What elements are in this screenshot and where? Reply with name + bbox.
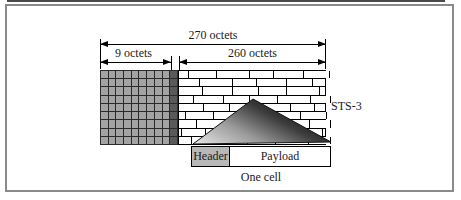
overhead-grid-cell [101, 137, 108, 144]
overhead-grid-cell [139, 96, 146, 103]
overhead-grid-cell [124, 129, 131, 136]
cell-caption: One cell [191, 170, 331, 185]
brick [313, 79, 325, 86]
brick [250, 71, 274, 78]
crop-remnant-line [7, 0, 445, 2]
overhead-grid-cell [155, 104, 162, 111]
brick [274, 71, 304, 78]
overhead-grid-cell [147, 87, 154, 94]
brick [257, 79, 287, 86]
payload-width-arrow [179, 62, 326, 63]
brick [233, 79, 257, 86]
overhead-grid-cell [101, 112, 108, 119]
brick [304, 71, 330, 78]
overhead-grid-cell [132, 120, 139, 127]
overhead-grid [100, 70, 178, 145]
overhead-grid-cell [101, 71, 108, 78]
overhead-grid-cell [124, 120, 131, 127]
overhead-grid-cell [155, 87, 162, 94]
overhead-grid-cell [155, 129, 162, 136]
overhead-grid-cell [139, 120, 146, 127]
overhead-grid-cell [163, 120, 170, 127]
brick-row [179, 79, 325, 87]
cell-zoom-triangle [189, 96, 333, 146]
overhead-grid-cell [147, 120, 154, 127]
brick-row [179, 87, 325, 95]
overhead-grid-cell [132, 96, 139, 103]
overhead-grid-cell [163, 112, 170, 119]
overhead-grid-cell [124, 87, 131, 94]
brick [179, 79, 200, 86]
overhead-grid-cell [132, 71, 139, 78]
overhead-grid-cell [116, 120, 123, 127]
overhead-grid-cell [155, 137, 162, 144]
overhead-grid-cell [147, 129, 154, 136]
overhead-grid-cell [147, 137, 154, 144]
overhead-grid-cell [147, 96, 154, 103]
overhead-grid-cell [116, 112, 123, 119]
overhead-grid-cell [139, 87, 146, 94]
total-width-arrow [100, 44, 326, 45]
total-width-label: 270 octets [100, 28, 326, 42]
overhead-grid-cell [124, 79, 131, 86]
overhead-grid-cell [170, 87, 177, 94]
overhead-grid-cell [109, 104, 116, 111]
overhead-grid-cell [170, 137, 177, 144]
overhead-grid-cell [116, 129, 123, 136]
frame-label: STS-3 [331, 99, 362, 114]
overhead-grid-cell [155, 96, 162, 103]
overhead-grid-cell [109, 79, 116, 86]
overhead-grid-cell [109, 120, 116, 127]
cell-box: Header Payload [191, 146, 331, 167]
overhead-width-arrow [100, 62, 171, 63]
brick [203, 87, 233, 94]
overhead-grid-cell [139, 137, 146, 144]
cell-header-segment: Header [192, 147, 230, 166]
brick [179, 71, 189, 78]
overhead-grid-cell [109, 87, 116, 94]
dimension-tick-right [325, 39, 326, 69]
brick [179, 112, 186, 119]
overhead-grid-cell [163, 71, 170, 78]
overhead-grid-cell [163, 96, 170, 103]
overhead-grid-cell [155, 120, 162, 127]
overhead-grid-cell [116, 104, 123, 111]
overhead-grid-cell [109, 112, 116, 119]
brick [200, 79, 233, 86]
overhead-grid-cell [109, 129, 116, 136]
overhead-grid-cell [132, 137, 139, 144]
overhead-grid-cell [101, 129, 108, 136]
overhead-grid-cell [124, 71, 131, 78]
overhead-grid-cell [163, 137, 170, 144]
brick [287, 79, 313, 86]
overhead-width-label: 9 octets [96, 46, 171, 60]
overhead-grid-cell [101, 120, 108, 127]
overhead-grid-cell [147, 79, 154, 86]
overhead-grid-cell [163, 79, 170, 86]
brick [287, 87, 320, 94]
brick [189, 71, 217, 78]
brick [217, 71, 250, 78]
overhead-grid-cell [155, 79, 162, 86]
overhead-grid-cell [163, 87, 170, 94]
overhead-grid-cell [124, 112, 131, 119]
overhead-grid-cell [124, 104, 131, 111]
overhead-grid-cell [116, 87, 123, 94]
dimension-tick-mid-left [171, 56, 172, 70]
overhead-grid-cell [170, 79, 177, 86]
overhead-grid-cell [147, 71, 154, 78]
overhead-grid-cell [139, 129, 146, 136]
overhead-grid-cell [139, 112, 146, 119]
overhead-grid-cell [101, 79, 108, 86]
overhead-grid-cell [101, 104, 108, 111]
overhead-grid-cell [170, 104, 177, 111]
overhead-grid-cell [101, 87, 108, 94]
overhead-grid-cell [132, 112, 139, 119]
cell-payload-segment: Payload [230, 147, 330, 166]
overhead-grid-cell [132, 129, 139, 136]
overhead-grid-cell [170, 129, 177, 136]
brick [259, 87, 287, 94]
overhead-grid-cell [109, 137, 116, 144]
overhead-grid-cell [170, 96, 177, 103]
overhead-grid-cell [163, 129, 170, 136]
